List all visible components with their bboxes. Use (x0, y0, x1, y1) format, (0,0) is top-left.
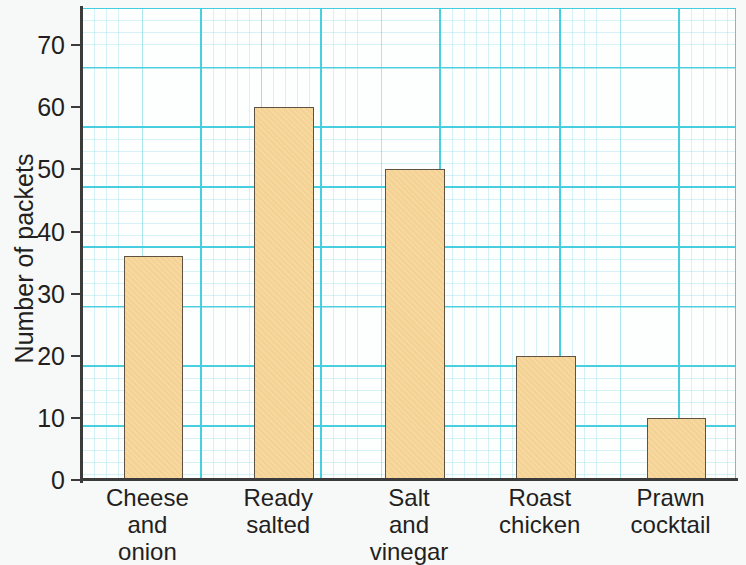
y-tick-label-20: 20 (37, 341, 65, 370)
y-tick-label-0: 0 (51, 466, 65, 495)
y-tick-label-30: 30 (37, 279, 65, 308)
x-label-salt-and-vinegar: Saltandvinegar (344, 484, 475, 565)
x-axis-line (80, 478, 738, 481)
y-tick-label-50: 50 (37, 155, 65, 184)
y-tick-mark-30 (71, 293, 80, 295)
x-axis-labels: CheeseandonionReadysaltedSaltandvinegarR… (82, 484, 736, 561)
x-label-cheese-and-onion: Cheeseandonion (82, 484, 213, 565)
plot-area (82, 8, 736, 480)
bars-layer (82, 8, 736, 480)
bar-roast-chicken (516, 356, 576, 480)
y-tick-mark-70 (71, 44, 80, 46)
x-label-ready-salted: Readysalted (213, 484, 344, 538)
y-tick-mark-20 (71, 355, 80, 357)
x-label-prawn-cocktail: Prawncocktail (605, 484, 736, 538)
x-label-roast-chicken: Roastchicken (474, 484, 605, 538)
y-axis-title: Number of packets (10, 49, 39, 469)
bar-prawn-cocktail (647, 418, 707, 480)
y-tick-label-40: 40 (37, 217, 65, 246)
y-tick-label-60: 60 (37, 93, 65, 122)
y-tick-mark-50 (71, 168, 80, 170)
y-tick-label-10: 10 (37, 403, 65, 432)
bar-ready-salted (254, 107, 314, 480)
bar-cheese-and-onion (124, 256, 184, 480)
y-axis-line (80, 6, 83, 483)
y-tick-mark-0 (71, 479, 80, 481)
y-tick-mark-10 (71, 417, 80, 419)
y-tick-mark-60 (71, 106, 80, 108)
bar-salt-and-vinegar (385, 169, 445, 480)
y-tick-mark-40 (71, 231, 80, 233)
y-tick-label-70: 70 (37, 31, 65, 60)
